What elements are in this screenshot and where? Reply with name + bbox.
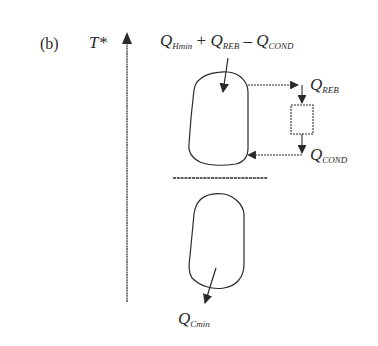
- diagram-canvas: (b) T* QHmin + QREB – QCOND QREB QCOND Q…: [0, 0, 378, 346]
- q-symbol: Q: [178, 309, 190, 328]
- subscript-cond: COND: [322, 155, 347, 165]
- q-symbol: Q: [210, 31, 222, 50]
- subscript-cmin: Cmin: [190, 319, 210, 329]
- axis-arrow-icon: [122, 32, 132, 44]
- subscript-reb: REB: [322, 85, 339, 95]
- subscript-cond: COND: [268, 41, 293, 51]
- q-symbol: Q: [256, 31, 268, 50]
- q-symbol: Q: [160, 31, 172, 50]
- reb-label: QREB: [310, 76, 339, 93]
- top-heat-label: QHmin + QREB – QCOND: [160, 32, 293, 49]
- q-symbol: Q: [310, 145, 322, 164]
- plus-sign: +: [192, 31, 210, 50]
- q-symbol: Q: [310, 75, 322, 94]
- heat-input-arrow: [223, 58, 228, 92]
- column-box: [291, 105, 313, 134]
- subscript-hmin: Hmin: [172, 41, 192, 51]
- reboiler-condenser-loop: [248, 85, 313, 155]
- heat-output-arrow: [205, 268, 216, 303]
- minus-sign: –: [239, 31, 256, 50]
- subscript-reb: REB: [223, 41, 240, 51]
- upper-region-blob: [189, 72, 248, 166]
- axis-label: T*: [89, 34, 107, 51]
- panel-label: (b): [40, 36, 59, 52]
- cmin-label: QCmin: [178, 310, 210, 327]
- lower-region-blob: [189, 194, 244, 289]
- temperature-axis: [122, 32, 132, 302]
- cond-label: QCOND: [310, 146, 347, 163]
